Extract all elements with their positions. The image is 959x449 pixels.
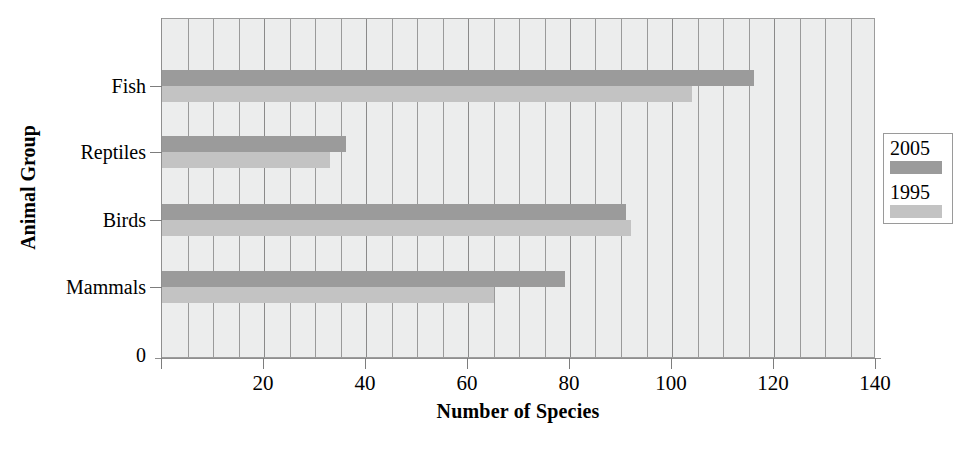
legend-label-2005: 2005 [890,137,948,160]
x-tick-label-80: 80 [534,371,604,395]
bar-birds-2005 [162,204,626,220]
x-tick-40 [365,358,366,369]
legend-swatch-1995 [890,205,942,218]
x-tick-label-100: 100 [636,371,706,395]
x-axis-title: Number of Species [161,400,875,423]
bar-mammals-1995 [162,287,494,303]
gridline [774,19,775,357]
y-tick-reptiles [150,152,162,153]
y-axis-title: Animal Group [17,108,40,268]
x-tick-80 [569,358,570,369]
bar-fish-2005 [162,70,754,86]
legend-label-1995: 1995 [890,181,948,204]
legend-swatch-2005 [890,161,942,174]
legend: 2005 1995 [883,133,953,224]
y-axis-labels: Fish Reptiles Birds Mammals 0 [36,0,146,449]
y-tick-birds [150,220,162,221]
x-tick-60 [467,358,468,369]
y-tick-label-reptiles: Reptiles [46,142,146,162]
y-tick-label-mammals: Mammals [46,277,146,297]
x-tick-label-40: 40 [330,371,400,395]
plot-area [161,18,875,358]
x-tick-100 [671,358,672,369]
y-tick-label-fish: Fish [46,76,146,96]
x-tick-20 [263,358,264,369]
bar-fish-1995 [162,86,692,102]
chart-title-remnant [250,0,720,5]
y-tick-label-birds: Birds [46,210,146,230]
y-axis-line [161,18,162,359]
x-tick-label-20: 20 [228,371,298,395]
gridline [851,19,852,357]
y-axis-origin-label: 0 [46,345,146,365]
x-tick-120 [773,358,774,369]
y-tick-mammals [150,287,162,288]
y-tick-fish [150,86,162,87]
x-tick-label-60: 60 [432,371,502,395]
bar-reptiles-1995 [162,152,330,168]
x-tick-140 [875,358,876,369]
gridline [800,19,801,357]
bar-mammals-2005 [162,271,565,287]
x-tick-label-120: 120 [738,371,808,395]
bar-reptiles-2005 [162,136,346,152]
x-tick-0 [161,358,162,369]
bar-birds-1995 [162,220,631,236]
x-tick-label-140: 140 [840,371,910,395]
gridline [825,19,826,357]
